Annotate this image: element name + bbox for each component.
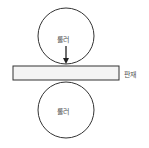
bottom-roller-label: 롤러 — [57, 106, 69, 116]
plate — [13, 66, 119, 80]
top-roller-label: 롤러 — [57, 34, 69, 44]
plate-label: 판재 — [124, 69, 136, 79]
